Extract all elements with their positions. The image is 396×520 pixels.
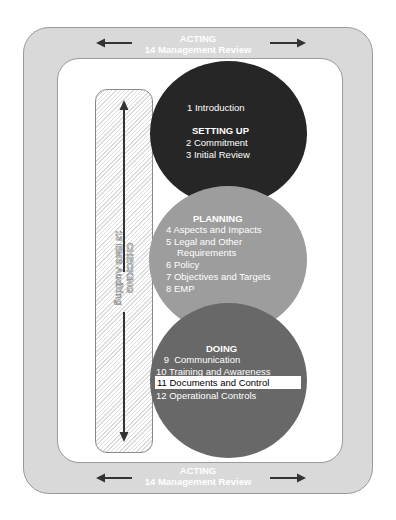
acting-bottom-title: ACTING: [0, 465, 396, 476]
acting-top-title: ACTING: [0, 33, 396, 44]
doing-item: 9 Communication: [161, 354, 240, 365]
setting-up-item: 2 Commitment: [186, 137, 248, 148]
acting-top-subtitle: 14 Management Review: [0, 44, 396, 55]
doing-item-highlighted: 11 Documents and Control: [157, 377, 269, 388]
planning-item: 5 Legal and Other: [166, 236, 242, 247]
highlighted-item: 11 Documents and Control: [155, 376, 301, 389]
doing-title: DOING: [206, 343, 237, 354]
planning-item: 4 Aspects and Impacts: [166, 224, 262, 235]
setting-up-item: 3 Initial Review: [186, 149, 250, 160]
planning-item: 8 EMP: [166, 283, 195, 294]
acting-bottom-subtitle: 14 Management Review: [0, 476, 396, 487]
planning-title: PLANNING: [193, 213, 243, 224]
planning-item: Requirements: [177, 247, 236, 258]
arrow-right-icon: [270, 473, 306, 483]
checking-subtitle: 13 EMS Auditing: [114, 168, 125, 368]
checking-label: CHECKING 13 EMS Auditing: [112, 168, 136, 368]
arrow-left-icon: [96, 38, 132, 48]
checking-title: CHECKING: [125, 168, 136, 368]
intro-item: 1 Introduction: [187, 102, 245, 113]
arrow-right-icon: [270, 38, 306, 48]
planning-item: 7 Objectives and Targets: [166, 271, 270, 282]
setting-up-title: SETTING UP: [192, 125, 249, 136]
arrow-left-icon: [96, 473, 132, 483]
planning-item: 6 Policy: [166, 259, 199, 270]
doing-item: 12 Operational Controls: [156, 390, 256, 401]
